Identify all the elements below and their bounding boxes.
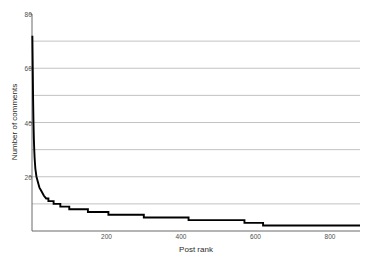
x-tick-label-200: 200 xyxy=(101,233,112,240)
x-tick-label-400: 400 xyxy=(175,233,186,240)
plot-canvas xyxy=(0,0,373,264)
y-tick-label-60: 60 xyxy=(20,65,32,72)
y-tick-label-40: 40 xyxy=(20,119,32,126)
x-axis-title: Post rank xyxy=(179,245,213,254)
y-tick-label-20: 20 xyxy=(20,173,32,180)
x-tick-label-600: 600 xyxy=(250,233,261,240)
y-axis-title: Number of comments xyxy=(10,84,19,160)
data-series-line xyxy=(32,36,360,226)
y-tick-label-80: 80 xyxy=(20,11,32,18)
x-tick-label-800: 800 xyxy=(324,233,335,240)
gridlines-group xyxy=(32,41,360,204)
chart-figure: 80 60 40 20 200 400 600 800 Post rank Nu… xyxy=(0,0,373,264)
